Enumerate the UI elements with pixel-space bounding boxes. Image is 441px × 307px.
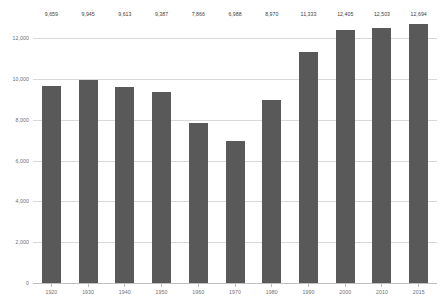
bar-group: 9,659	[33, 18, 70, 283]
x-axis-tick: 1990	[290, 284, 327, 304]
y-axis-tick-label: 6,000	[16, 158, 29, 164]
x-axis-tick-label: 1980	[266, 289, 278, 295]
bar[interactable]: 7,866	[189, 123, 208, 283]
bar[interactable]: 11,333	[299, 52, 318, 283]
bar-value-label: 11,333	[301, 11, 317, 17]
x-axis-tick: 1970	[217, 284, 254, 304]
bar-value-label: 9,613	[118, 11, 131, 17]
bar-value-label: 8,970	[265, 11, 278, 17]
bar-value-label: 6,988	[228, 11, 241, 17]
bar-group: 11,333	[290, 18, 327, 283]
x-axis-tick: 1940	[106, 284, 143, 304]
bar-group: 12,694	[400, 18, 437, 283]
bar-group: 12,405	[327, 18, 364, 283]
x-axis-tick: 2000	[327, 284, 364, 304]
x-axis-tick-mark	[235, 284, 236, 287]
x-axis-tick-mark	[308, 284, 309, 287]
x-axis-tick-label: 1940	[119, 289, 131, 295]
bar-chart: 02,0004,0006,0008,00010,00012,000 9,6599…	[0, 0, 441, 307]
x-axis-tick-mark	[161, 284, 162, 287]
x-axis-tick-label: 1930	[82, 289, 94, 295]
y-axis-tick-label: 10,000	[13, 76, 29, 82]
bar[interactable]: 6,988	[226, 141, 245, 283]
bar[interactable]: 9,387	[152, 92, 171, 283]
x-axis-tick-label: 1960	[192, 289, 204, 295]
x-axis-tick: 1980	[253, 284, 290, 304]
bar[interactable]: 12,503	[372, 28, 391, 283]
bar-group: 9,387	[143, 18, 180, 283]
bar[interactable]: 12,405	[336, 30, 355, 283]
y-axis-tick-label: 12,000	[13, 35, 29, 41]
x-axis-tick: 1950	[143, 284, 180, 304]
bar[interactable]: 9,613	[115, 87, 134, 283]
bar-value-label: 12,503	[374, 11, 390, 17]
y-axis-tick-label: 4,000	[16, 198, 29, 204]
bar-value-label: 7,866	[192, 11, 205, 17]
x-axis-tick-mark	[271, 284, 272, 287]
y-axis-tick-label: 8,000	[16, 117, 29, 123]
bar-group: 9,613	[106, 18, 143, 283]
x-axis-ticks: 1920193019401950196019701980199020002010…	[33, 284, 437, 304]
x-axis-tick-mark	[418, 284, 419, 287]
x-axis-tick-label: 1950	[156, 289, 168, 295]
bar-group: 7,866	[180, 18, 217, 283]
bar[interactable]: 8,970	[262, 100, 281, 283]
x-axis-tick: 1930	[70, 284, 107, 304]
y-axis-tick-label: 2,000	[16, 239, 29, 245]
x-axis-tick-label: 1970	[229, 289, 241, 295]
bar-group: 9,945	[70, 18, 107, 283]
x-axis-tick-mark	[124, 284, 125, 287]
x-axis-tick: 2015	[400, 284, 437, 304]
y-axis-tick-label: 0	[26, 280, 29, 286]
x-axis-tick-label: 2010	[376, 289, 388, 295]
bar-value-label: 12,694	[411, 11, 427, 17]
x-axis-tick-mark	[381, 284, 382, 287]
x-axis-tick-label: 1920	[45, 289, 57, 295]
x-axis-tick-label: 1990	[303, 289, 315, 295]
bar-group: 6,988	[217, 18, 254, 283]
bar-value-label: 12,405	[337, 11, 353, 17]
x-axis-tick-mark	[88, 284, 89, 287]
bar-group: 8,970	[253, 18, 290, 283]
x-axis-tick-label: 2015	[413, 289, 425, 295]
bar[interactable]: 9,659	[42, 86, 61, 283]
x-axis-tick: 1960	[180, 284, 217, 304]
x-axis-tick-mark	[198, 284, 199, 287]
x-axis-tick: 1920	[33, 284, 70, 304]
bar-series: 9,6599,9459,6139,3877,8666,9888,97011,33…	[33, 18, 437, 283]
bar-value-label: 9,387	[155, 11, 168, 17]
x-axis-tick-mark	[51, 284, 52, 287]
bar-value-label: 9,659	[45, 11, 58, 17]
x-axis-tick-label: 2000	[339, 289, 351, 295]
bar[interactable]: 12,694	[409, 24, 428, 283]
bar-value-label: 9,945	[81, 11, 94, 17]
x-axis-tick: 2010	[364, 284, 401, 304]
bar[interactable]: 9,945	[79, 80, 98, 283]
x-axis-tick-mark	[345, 284, 346, 287]
bar-group: 12,503	[364, 18, 401, 283]
